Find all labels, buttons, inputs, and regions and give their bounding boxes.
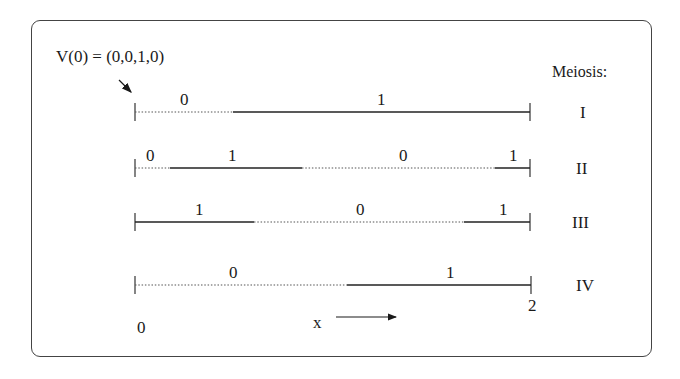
meiosis-label: II (576, 160, 587, 177)
pointer-arrow-icon (119, 80, 131, 92)
segment-value-label: 0 (356, 201, 365, 218)
segment-value-label: 0 (399, 147, 408, 164)
meiosis-label: I (580, 104, 586, 121)
segment-value-label: 0 (146, 147, 155, 164)
axis-end-label: 2 (528, 297, 537, 314)
axis-variable-label: x (313, 314, 322, 331)
segment-value-label: 0 (180, 91, 189, 108)
initial-vector-label: V(0) = (0,0,1,0) (56, 48, 164, 65)
axis-start-label: 0 (137, 319, 146, 336)
meiosis-label: IV (576, 277, 594, 294)
segment-value-label: 1 (446, 264, 455, 281)
chromosome-rows (135, 103, 531, 294)
segment-value-label: 0 (229, 264, 238, 281)
meiosis-header: Meiosis: (552, 64, 607, 80)
segment-value-label: 1 (228, 147, 237, 164)
segment-value-label: 1 (499, 201, 508, 218)
segment-value-label: 1 (509, 147, 518, 164)
meiosis-label: III (572, 214, 589, 231)
segment-value-label: 1 (195, 201, 204, 218)
segment-value-label: 1 (377, 91, 386, 108)
